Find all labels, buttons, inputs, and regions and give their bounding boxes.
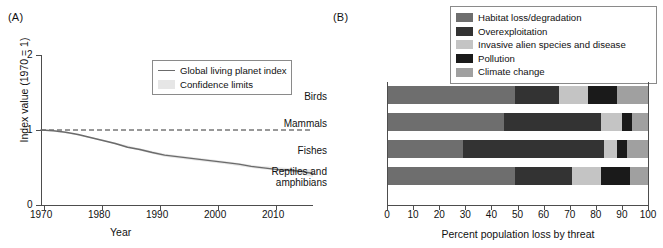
legend-label-overexploitation: Overexploitation (478, 27, 547, 37)
bar-segment (504, 113, 601, 131)
panel-b-x-axis-label: Percent population loss by threat (383, 228, 653, 240)
bar-segment (515, 167, 572, 185)
swatch-invasive-species-icon (456, 40, 473, 49)
category-label-fishes: Fishes (298, 145, 327, 156)
table-row (387, 113, 648, 131)
bar-segment (515, 86, 559, 104)
bar-segment (627, 140, 648, 158)
bar-segment (588, 86, 617, 104)
panel-b-xtick-label-30: 30 (453, 209, 477, 220)
panel-a-x-tick-1970: 1970 (30, 209, 52, 220)
legend-item-index: Global living planet index (158, 64, 286, 78)
panel-a-x-axis (41, 205, 313, 206)
bar-segment (387, 140, 463, 158)
panel-b-xtick-label-80: 80 (584, 209, 608, 220)
table-row (387, 140, 648, 158)
panel-a-xtick-mark-2010 (276, 205, 277, 210)
swatch-climate-change-icon (456, 68, 473, 77)
legend-item-overexploitation: Overexploitation (456, 25, 650, 39)
panel-b-y-axis (387, 82, 388, 206)
table-row (387, 86, 648, 104)
panel-a-xtick-mark-1980 (102, 205, 103, 210)
legend-item-confidence: Confidence limits (158, 78, 286, 92)
panel-a-x-tick-1980: 1980 (88, 209, 110, 220)
panel-b-xtick-label-10: 10 (401, 209, 425, 220)
panel-a-x-axis-label: Year (110, 226, 131, 238)
panel-b-legend: Habitat loss/degradation Overexploitatio… (450, 6, 657, 84)
panel-b-xtick-label-70: 70 (558, 209, 582, 220)
bar-segment (601, 167, 630, 185)
panel-b-xtick-label-90: 90 (610, 209, 634, 220)
bar-segment (463, 140, 604, 158)
band-swatch-icon (158, 80, 175, 89)
panel-b-bar-chart: (B) Habitat loss/degradation Overexploit… (331, 0, 663, 248)
line-swatch-icon (158, 70, 175, 71)
bar-segment (387, 86, 515, 104)
panel-a-x-tick-2010: 2010 (262, 209, 284, 220)
panel-b-xtick-label-60: 60 (532, 209, 556, 220)
panel-a-x-tick-2000: 2000 (204, 209, 226, 220)
panel-b-xtick-label-40: 40 (479, 209, 503, 220)
bar-segment (559, 86, 588, 104)
panel-a-y-tick-2: 2 (27, 49, 33, 60)
bar-segment (387, 167, 515, 185)
legend-label-pollution: Pollution (478, 54, 515, 64)
panel-a-ytick-mark-0 (36, 205, 41, 206)
panel-a-xtick-mark-1970 (44, 205, 45, 210)
figure-container: (A) Index value (1970 = 1) Year 2 1 0 19… (0, 0, 663, 248)
legend-label-habitat-loss: Habitat loss/degradation (478, 13, 581, 23)
panel-b-xtick-label-20: 20 (427, 209, 451, 220)
panel-a-legend: Global living planet index Confidence li… (152, 60, 292, 95)
panel-b-plot-area (387, 86, 648, 202)
panel-b-label: (B) (333, 11, 348, 23)
bar-segment (601, 113, 622, 131)
panel-a-xtick-mark-1990 (160, 205, 161, 210)
category-label-reptiles-amphibians: Reptiles and amphibians (265, 166, 327, 188)
panel-a-y-axis-label: Index value (1970 = 1) (18, 20, 30, 160)
bar-segment (572, 167, 601, 185)
bar-segment (387, 113, 504, 131)
category-label-mammals: Mammals (284, 118, 327, 129)
legend-item-pollution: Pollution (456, 52, 650, 66)
panel-b-right-spine (648, 82, 649, 206)
swatch-habitat-loss-icon (456, 13, 473, 22)
table-row (387, 167, 648, 185)
bar-segment (630, 167, 648, 185)
panel-b-xtick-label-100: 100 (636, 209, 660, 220)
panel-b-xtick-label-50: 50 (506, 209, 530, 220)
bar-segment (604, 140, 617, 158)
legend-item-habitat-loss: Habitat loss/degradation (456, 11, 650, 25)
panel-b-xtick-label-0: 0 (375, 209, 399, 220)
category-label-birds: Birds (304, 91, 327, 102)
legend-label-climate-change: Climate change (478, 67, 545, 77)
panel-a-line-chart: (A) Index value (1970 = 1) Year 2 1 0 19… (0, 0, 331, 248)
bar-segment (632, 113, 648, 131)
swatch-pollution-icon (456, 54, 473, 63)
bar-segment (617, 86, 648, 104)
legend-label-index: Global living planet index (180, 66, 287, 76)
swatch-overexploitation-icon (456, 27, 473, 36)
panel-a-xtick-mark-2000 (218, 205, 219, 210)
legend-item-climate-change: Climate change (456, 65, 650, 79)
panel-a-x-tick-1990: 1990 (146, 209, 168, 220)
legend-item-invasive-species: Invasive alien species and disease (456, 38, 650, 52)
legend-label-confidence: Confidence limits (180, 80, 253, 90)
panel-a-y-tick-1: 1 (27, 124, 33, 135)
bar-segment (617, 140, 627, 158)
bar-segment (622, 113, 632, 131)
legend-label-invasive-species: Invasive alien species and disease (478, 40, 626, 50)
